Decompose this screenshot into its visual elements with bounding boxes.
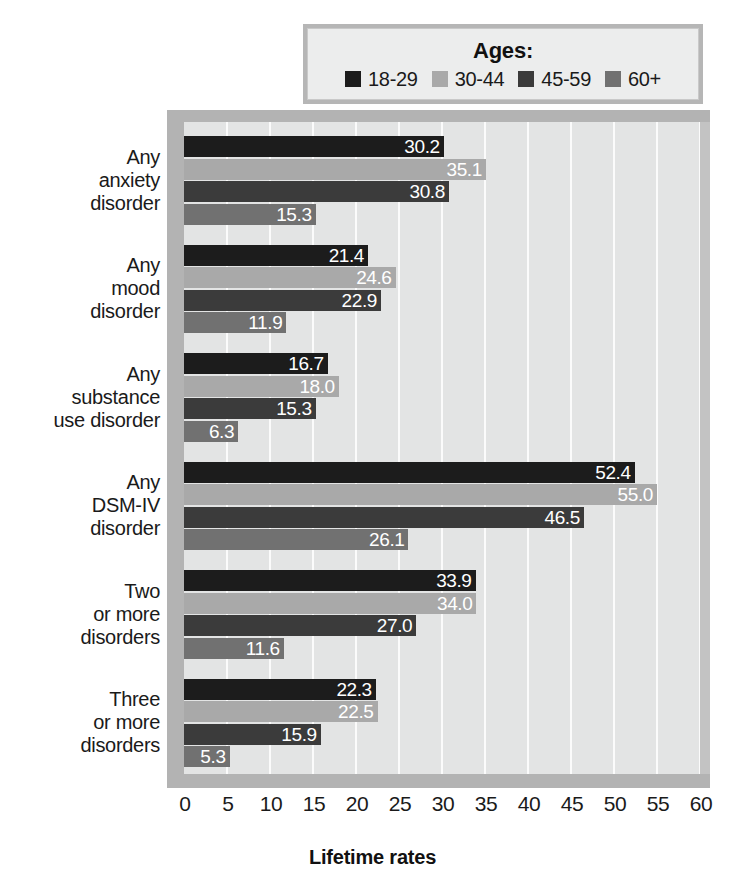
bar[interactable]: 30.2 — [184, 136, 444, 157]
bar-value-label: 15.9 — [281, 725, 316, 744]
x-tick-label: 20 — [346, 792, 369, 816]
legend-swatch-icon — [605, 71, 621, 87]
bar[interactable]: 30.8 — [184, 181, 449, 202]
x-axis-title: Lifetime rates — [0, 846, 745, 869]
legend-item-18-29[interactable]: 18-29 — [345, 68, 418, 91]
category-label: Threeor moredisorders — [10, 688, 160, 757]
bar-value-label: 22.5 — [338, 702, 373, 721]
bar-value-label: 33.9 — [436, 571, 471, 590]
bar[interactable]: 11.9 — [184, 312, 286, 333]
category-label-line: substance — [10, 386, 160, 409]
category-axis-labels: AnyanxietydisorderAnymooddisorderAnysubs… — [8, 110, 160, 788]
legend-item-label: 18-29 — [368, 68, 418, 91]
category-label: Anyanxietydisorder — [10, 146, 160, 215]
legend-swatch-icon — [345, 71, 361, 87]
bar[interactable]: 15.3 — [184, 204, 316, 225]
x-tick-label: 0 — [179, 792, 190, 816]
category-label: AnyDSM-IVdisorder — [10, 471, 160, 540]
category-label: Twoor moredisorders — [10, 580, 160, 649]
category-label-line: anxiety — [10, 169, 160, 192]
bar[interactable]: 22.9 — [184, 290, 381, 311]
category-label-line: Three — [10, 688, 160, 711]
bar[interactable]: 22.3 — [184, 679, 376, 700]
bar-value-label: 18.0 — [299, 377, 334, 396]
bar-group: 52.455.046.526.1 — [184, 462, 700, 552]
category-label-line: use disorder — [10, 409, 160, 432]
legend-item-45-59[interactable]: 45-59 — [518, 68, 591, 91]
x-tick-label: 55 — [647, 792, 670, 816]
category-label-line: Any — [10, 254, 160, 277]
bar[interactable]: 21.4 — [184, 245, 368, 266]
plot-left-wall — [167, 122, 184, 774]
bar-value-label: 34.0 — [437, 594, 472, 613]
bar-value-label: 11.9 — [248, 313, 282, 332]
bar[interactable]: 27.0 — [184, 615, 416, 636]
category-label-line: or more — [10, 603, 160, 626]
x-tick-label: 60 — [690, 792, 713, 816]
bar-value-label: 27.0 — [377, 616, 412, 635]
bar-group: 33.934.027.011.6 — [184, 570, 700, 660]
category-label-line: disorders — [10, 734, 160, 757]
legend: Ages: 18-2930-4445-5960+ — [303, 24, 703, 104]
category-label-line: Any — [10, 146, 160, 169]
bar[interactable]: 15.9 — [184, 724, 321, 745]
x-tick-label: 25 — [389, 792, 412, 816]
bar-group: 30.235.130.815.3 — [184, 136, 700, 226]
bar-value-label: 16.7 — [288, 354, 323, 373]
bar[interactable]: 22.5 — [184, 701, 378, 722]
x-tick-label: 15 — [303, 792, 326, 816]
bar[interactable]: 5.3 — [184, 746, 230, 767]
x-tick-label: 30 — [432, 792, 455, 816]
category-label-line: disorders — [10, 626, 160, 649]
x-axis-tick-labels: 051015202530354045505560 — [184, 792, 714, 820]
bar[interactable]: 26.1 — [184, 529, 408, 550]
bar[interactable]: 18.0 — [184, 376, 339, 397]
bar-value-label: 15.3 — [276, 399, 311, 418]
bar[interactable]: 6.3 — [184, 421, 238, 442]
bar-value-label: 22.9 — [342, 291, 377, 310]
bar-group: 21.424.622.911.9 — [184, 245, 700, 335]
bar-value-label: 21.4 — [329, 246, 364, 265]
plot-frame: 30.235.130.815.321.424.622.911.916.718.0… — [167, 110, 710, 788]
bar[interactable]: 11.6 — [184, 638, 284, 659]
x-tick-label: 5 — [222, 792, 233, 816]
bar-value-label: 46.5 — [545, 508, 580, 527]
bar[interactable]: 15.3 — [184, 398, 316, 419]
category-label-line: disorder — [10, 517, 160, 540]
bar[interactable]: 16.7 — [184, 353, 328, 374]
category-label: Anysubstanceuse disorder — [10, 363, 160, 432]
legend-title: Ages: — [473, 38, 533, 64]
legend-items: 18-2930-4445-5960+ — [345, 68, 661, 91]
legend-item-30-44[interactable]: 30-44 — [432, 68, 505, 91]
x-tick-label: 50 — [604, 792, 627, 816]
category-label: Anymooddisorder — [10, 254, 160, 323]
x-tick-label: 35 — [475, 792, 498, 816]
legend-swatch-icon — [432, 71, 448, 87]
category-label-line: Any — [10, 363, 160, 386]
plot-right-wall — [700, 122, 710, 774]
category-label-line: disorder — [10, 300, 160, 323]
bar[interactable]: 33.9 — [184, 570, 476, 591]
bar-value-label: 30.2 — [404, 137, 439, 156]
bar[interactable]: 46.5 — [184, 507, 584, 528]
x-tick-label: 40 — [518, 792, 541, 816]
plot-area: 30.235.130.815.321.424.622.911.916.718.0… — [184, 122, 700, 774]
legend-item-label: 60+ — [628, 68, 661, 91]
bar[interactable]: 34.0 — [184, 593, 476, 614]
bar-group: 22.322.515.95.3 — [184, 679, 700, 769]
bar[interactable]: 24.6 — [184, 267, 396, 288]
bar-value-label: 35.1 — [446, 160, 481, 179]
bar-value-label: 11.6 — [246, 639, 280, 658]
bar-group: 16.718.015.36.3 — [184, 353, 700, 443]
bar-value-label: 26.1 — [369, 530, 404, 549]
category-label-line: disorder — [10, 192, 160, 215]
x-tick-label: 10 — [260, 792, 283, 816]
bar[interactable]: 35.1 — [184, 159, 486, 180]
bar[interactable]: 55.0 — [184, 484, 657, 505]
category-label-line: or more — [10, 711, 160, 734]
legend-item-60+[interactable]: 60+ — [605, 68, 661, 91]
bar-value-label: 24.6 — [356, 268, 391, 287]
bar-value-label: 5.3 — [200, 747, 225, 766]
bar[interactable]: 52.4 — [184, 462, 635, 483]
bar-value-label: 6.3 — [209, 422, 234, 441]
